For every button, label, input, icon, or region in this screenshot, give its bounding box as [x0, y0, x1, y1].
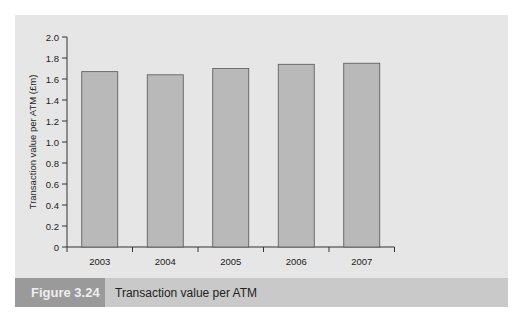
- y-tick-label: 0.2: [46, 221, 59, 232]
- y-tick-label: 2.0: [46, 32, 59, 43]
- bar-2006: [278, 64, 314, 247]
- y-tick-label: 1.4: [46, 95, 59, 106]
- y-tick-label: 1.8: [46, 53, 59, 64]
- y-tick-label: 1.2: [46, 116, 59, 127]
- y-axis-label: Transaction value per ATM (£m): [27, 75, 38, 210]
- bar-chart: 00.20.40.60.81.01.21.41.61.82.0Transacti…: [15, 15, 508, 278]
- figure-title: Transaction value per ATM: [105, 286, 257, 300]
- figure-label: Figure 3.24: [15, 278, 105, 307]
- y-tick-label: 1.0: [46, 137, 59, 148]
- chart-panel: 00.20.40.60.81.01.21.41.61.82.0Transacti…: [15, 15, 508, 278]
- x-tick-label: 2005: [220, 256, 241, 267]
- bar-2007: [344, 63, 380, 247]
- y-tick-label: 0.4: [46, 200, 59, 211]
- bar-2003: [82, 72, 118, 247]
- y-tick-label: 0.8: [46, 158, 59, 169]
- y-tick-label: 0.6: [46, 179, 59, 190]
- x-tick-label: 2007: [351, 256, 372, 267]
- x-tick-label: 2003: [89, 256, 110, 267]
- y-tick-label: 0: [54, 242, 59, 253]
- x-tick-label: 2004: [155, 256, 176, 267]
- figure-caption: Figure 3.24 Transaction value per ATM: [15, 278, 508, 307]
- y-tick-label: 1.6: [46, 74, 59, 85]
- bar-2005: [213, 69, 249, 248]
- x-tick-label: 2006: [286, 256, 307, 267]
- bar-2004: [147, 75, 183, 247]
